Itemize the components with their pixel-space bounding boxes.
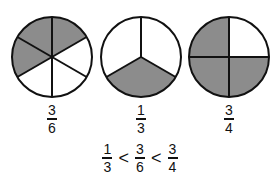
numerator: 1 (104, 142, 112, 156)
numerator: 3 (136, 142, 144, 156)
denominator: 6 (136, 160, 144, 174)
numerator: 3 (225, 103, 233, 117)
term-one-third: 1 3 (102, 142, 112, 174)
denominator: 4 (169, 160, 177, 174)
denominator: 3 (137, 121, 145, 135)
term-three-quarters: 3 4 (168, 142, 178, 174)
circle-quarters (189, 17, 269, 97)
denominator: 3 (104, 160, 112, 174)
numerator: 1 (137, 103, 145, 117)
term-three-sixths: 3 6 (135, 142, 145, 174)
label-one-third: 1 3 (136, 103, 146, 135)
denominator: 4 (225, 121, 233, 135)
circle-thirds (101, 17, 181, 97)
label-three-sixths: 3 6 (47, 103, 57, 135)
circle-sixths (12, 17, 92, 97)
less-than-sign: < (118, 149, 129, 167)
label-three-quarters: 3 4 (224, 103, 234, 135)
less-than-sign: < (151, 149, 162, 167)
numerator: 3 (169, 142, 177, 156)
numerator: 3 (48, 103, 56, 117)
inequality: 1 3 < 3 6 < 3 4 (0, 142, 280, 174)
denominator: 6 (48, 121, 56, 135)
